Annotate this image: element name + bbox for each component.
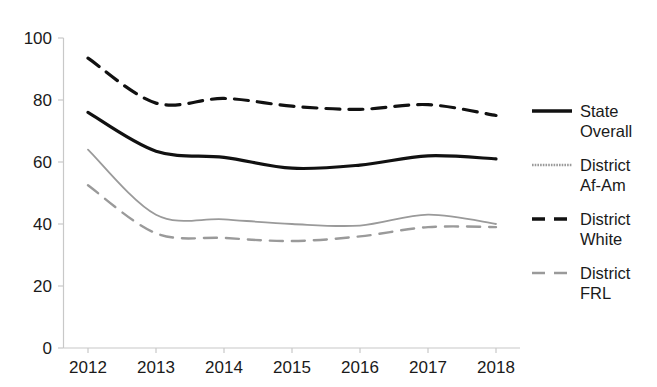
legend-item-state-overall[interactable]: State Overall: [532, 102, 632, 140]
legend-item-district-white[interactable]: District White: [532, 210, 631, 248]
series-line-district-frl: [88, 185, 496, 241]
legend-label-district-frl-line1: District: [580, 264, 631, 282]
chart-canvas: 100 80 60 40 20 0 2012 2013 2014 2015 20…: [0, 0, 657, 387]
line-chart-figure: 100 80 60 40 20 0 2012 2013 2014 2015 20…: [0, 0, 657, 387]
y-tick-label-0: 0: [43, 339, 52, 358]
x-tick-label-2016: 2016: [341, 358, 379, 377]
legend-label-district-af-am-line1: District: [580, 156, 631, 174]
y-axis: [58, 38, 64, 348]
x-tick-label-2015: 2015: [273, 358, 311, 377]
legend-label-state-overall-line1: State: [580, 102, 619, 120]
legend-label-district-af-am-line2: Af-Am: [580, 176, 626, 194]
x-tick-labels: 2012 2013 2014 2015 2016 2017 2018: [69, 358, 515, 377]
y-tick-label-80: 80: [33, 91, 52, 110]
x-tick-label-2018: 2018: [477, 358, 515, 377]
y-tick-label-40: 40: [33, 215, 52, 234]
x-tick-label-2012: 2012: [69, 358, 107, 377]
x-axis: [64, 348, 521, 353]
x-tick-label-2014: 2014: [205, 358, 243, 377]
y-tick-label-20: 20: [33, 277, 52, 296]
x-tick-label-2017: 2017: [409, 358, 447, 377]
chart-legend: State Overall District Af-Am District Wh…: [532, 102, 632, 302]
data-series-layer: [88, 58, 496, 241]
legend-label-district-white-line2: White: [580, 230, 622, 248]
legend-label-state-overall-line2: Overall: [580, 122, 632, 140]
y-tick-labels: 100 80 60 40 20 0: [24, 29, 52, 358]
series-line-state-overall: [88, 112, 496, 168]
y-tick-label-100: 100: [24, 29, 52, 48]
legend-label-district-white-line1: District: [580, 210, 631, 228]
series-line-district-af-am: [88, 150, 496, 227]
series-line-district-white: [88, 58, 496, 115]
legend-item-district-frl[interactable]: District FRL: [532, 264, 631, 302]
x-tick-label-2013: 2013: [137, 358, 175, 377]
legend-item-district-af-am[interactable]: District Af-Am: [532, 156, 631, 194]
y-tick-label-60: 60: [33, 153, 52, 172]
legend-label-district-frl-line2: FRL: [580, 284, 611, 302]
